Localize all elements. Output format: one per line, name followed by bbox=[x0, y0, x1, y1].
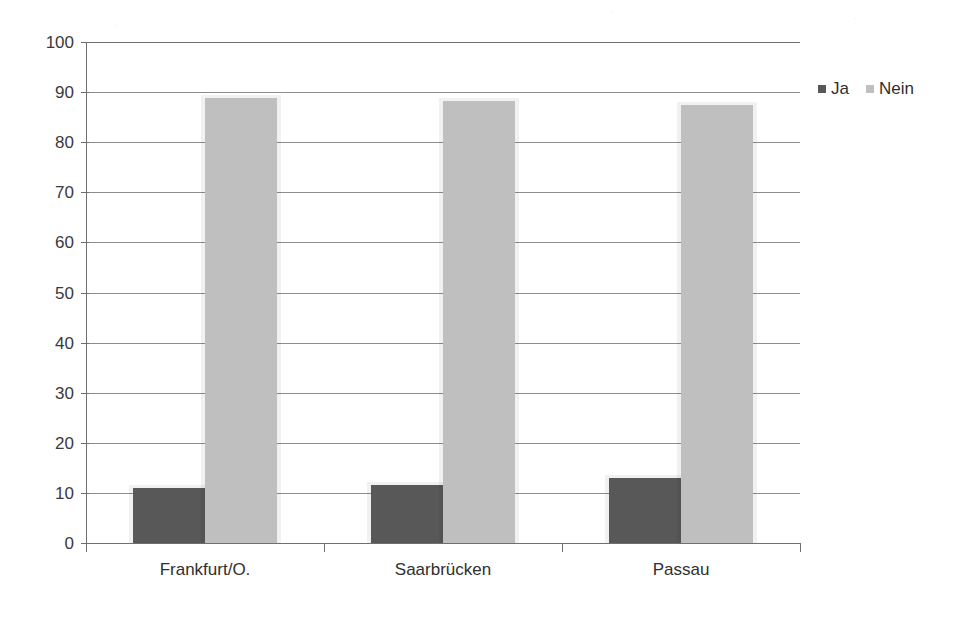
y-axis-tick-label: 30 bbox=[14, 385, 74, 402]
y-tick-mark-80 bbox=[81, 142, 89, 143]
y-axis-tick-label: 90 bbox=[14, 84, 74, 101]
y-tick-mark-90 bbox=[81, 92, 89, 93]
legend-item-nein[interactable]: Nein bbox=[866, 80, 914, 97]
plot-area bbox=[86, 42, 800, 543]
y-axis-tick-label: 10 bbox=[14, 485, 74, 502]
bar-nein-0[interactable] bbox=[205, 98, 277, 543]
legend-item-ja[interactable]: Ja bbox=[818, 80, 849, 97]
legend-label: Nein bbox=[879, 80, 914, 97]
y-axis-tick-label: 80 bbox=[14, 134, 74, 151]
bar-nein-1[interactable] bbox=[443, 101, 515, 543]
y-axis-tick-label: 70 bbox=[14, 184, 74, 201]
y-axis-tick-label: 100 bbox=[14, 34, 74, 51]
y-axis-labels: 1009080706050403020100 bbox=[8, 0, 74, 620]
gridline-90 bbox=[86, 92, 800, 93]
y-axis-tick-label: 60 bbox=[14, 234, 74, 251]
bar-ja-1[interactable] bbox=[371, 485, 443, 543]
bar-nein-2[interactable] bbox=[681, 105, 753, 543]
y-tick-mark-70 bbox=[81, 192, 89, 193]
legend-label: Ja bbox=[831, 80, 849, 97]
x-axis-end-tick-right bbox=[800, 543, 801, 552]
y-tick-mark-60 bbox=[81, 242, 89, 243]
y-tick-mark-20 bbox=[81, 443, 89, 444]
legend-swatch-icon bbox=[866, 85, 874, 93]
x-axis-category-label: Saarbrücken bbox=[324, 560, 562, 579]
y-tick-mark-40 bbox=[81, 343, 89, 344]
chart-legend: JaNein bbox=[818, 80, 914, 97]
bar-chart: 1009080706050403020100 Frankfurt/O.Saarb… bbox=[0, 0, 972, 620]
legend-swatch-icon bbox=[818, 85, 826, 93]
x-axis-category-label: Passau bbox=[562, 560, 800, 579]
x-axis-category-label: Frankfurt/O. bbox=[86, 560, 324, 579]
x-axis-tick bbox=[562, 543, 563, 552]
y-axis-tick-label: 20 bbox=[14, 435, 74, 452]
y-tick-mark-100 bbox=[81, 42, 89, 43]
x-axis-tick bbox=[324, 543, 325, 552]
gridline-100 bbox=[86, 42, 800, 43]
y-axis-line bbox=[86, 42, 87, 543]
bar-ja-0[interactable] bbox=[133, 488, 205, 543]
x-axis-line bbox=[86, 543, 800, 544]
y-tick-mark-10 bbox=[81, 493, 89, 494]
y-tick-mark-50 bbox=[81, 293, 89, 294]
y-axis-tick-label: 0 bbox=[14, 535, 74, 552]
bar-ja-2[interactable] bbox=[609, 478, 681, 543]
y-axis-tick-label: 50 bbox=[14, 285, 74, 302]
y-axis-tick-label: 40 bbox=[14, 335, 74, 352]
x-axis-end-tick-left bbox=[86, 543, 87, 552]
y-tick-mark-30 bbox=[81, 393, 89, 394]
